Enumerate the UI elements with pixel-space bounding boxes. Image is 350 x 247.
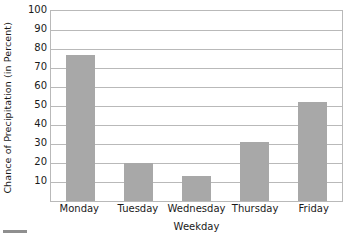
bar[interactable] (124, 163, 153, 201)
y-axis-tick-label: 10 (34, 176, 47, 186)
bar-slot (226, 11, 284, 201)
y-axis-tick-label: 40 (34, 119, 47, 129)
bars-layer (51, 11, 342, 201)
bar-slot (51, 11, 109, 201)
y-axis-tick-label: 50 (34, 100, 47, 110)
y-axis-tick-label: 20 (34, 157, 47, 167)
x-axis-tick-label: Monday (50, 204, 109, 214)
y-axis-tick-label: 70 (34, 62, 47, 72)
bar[interactable] (182, 176, 211, 201)
plot-area (50, 10, 343, 202)
y-axis-tick-labels: 102030405060708090100 (16, 0, 50, 204)
bar-slot (284, 11, 342, 201)
legend-dash-marker-icon (3, 230, 27, 233)
y-axis-tick-label: 80 (34, 43, 47, 53)
y-axis-tick-label: 60 (34, 81, 47, 91)
x-axis-tick-label: Thursday (226, 204, 285, 214)
bar[interactable] (240, 142, 269, 201)
bar-slot (109, 11, 167, 201)
y-axis-tick-label: 100 (28, 5, 47, 15)
y-axis-title: Chance of Precipitation (in Percent) (0, 0, 16, 215)
x-axis-tick-label: Friday (284, 204, 343, 214)
x-axis-title: Weekday (50, 222, 343, 232)
bar[interactable] (66, 55, 95, 201)
x-axis-tick-label: Tuesday (109, 204, 168, 214)
bar[interactable] (298, 102, 327, 201)
bar-chart-figure: Chance of Precipitation (in Percent) 102… (0, 0, 350, 247)
x-axis-tick-labels: MondayTuesdayWednesdayThursdayFriday (50, 204, 343, 214)
x-axis-tick-label: Wednesday (167, 204, 226, 214)
x-axis-title-label: Weekday (174, 221, 220, 232)
y-axis-tick-label: 90 (34, 24, 47, 34)
y-axis-title-label: Chance of Precipitation (in Percent) (3, 22, 13, 194)
bar-slot (167, 11, 225, 201)
y-axis-tick-label: 30 (34, 138, 47, 148)
